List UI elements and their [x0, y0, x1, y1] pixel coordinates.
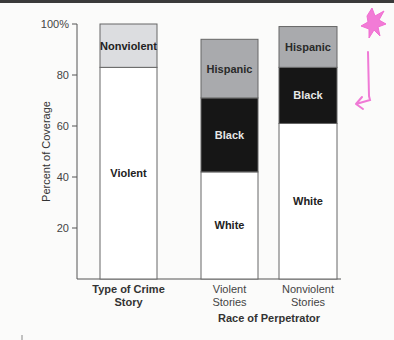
segment-label-hispanic: Hispanic: [207, 63, 253, 75]
y-tick-label: 60: [57, 120, 69, 132]
segment-label-white: White: [215, 219, 245, 231]
group-label-crime-type: Type of Crime: [92, 283, 165, 295]
group-label-race: Race of Perpetrator: [218, 312, 321, 324]
x-category-label: Violent: [213, 283, 246, 295]
y-axis-title: Percent of Coverage: [40, 101, 52, 202]
segment-label-hispanic: Hispanic: [285, 41, 331, 53]
group-label-crime-type: Story: [114, 296, 143, 308]
segment-label-black: Black: [215, 129, 245, 141]
x-category-label: Stories: [212, 296, 247, 308]
y-tick-label: 40: [57, 171, 69, 183]
y-tick-label: 100%: [41, 18, 69, 30]
x-category-label: Nonviolent: [282, 283, 334, 295]
stacked-bar-chart: 20406080100%Percent of Coverage ViolentN…: [0, 0, 394, 340]
doodle-star: [361, 8, 386, 38]
y-tick-label: 80: [57, 69, 69, 81]
pink-doodle: [356, 8, 386, 109]
segment-label-black: Black: [293, 89, 323, 101]
segment-label-white: White: [293, 195, 323, 207]
x-category-label: Stories: [291, 296, 326, 308]
segment-label-nonviolent: Nonviolent: [100, 40, 157, 52]
segment-label-violent: Violent: [110, 167, 147, 179]
doodle-arrow: [356, 52, 370, 109]
y-tick-label: 20: [57, 222, 69, 234]
